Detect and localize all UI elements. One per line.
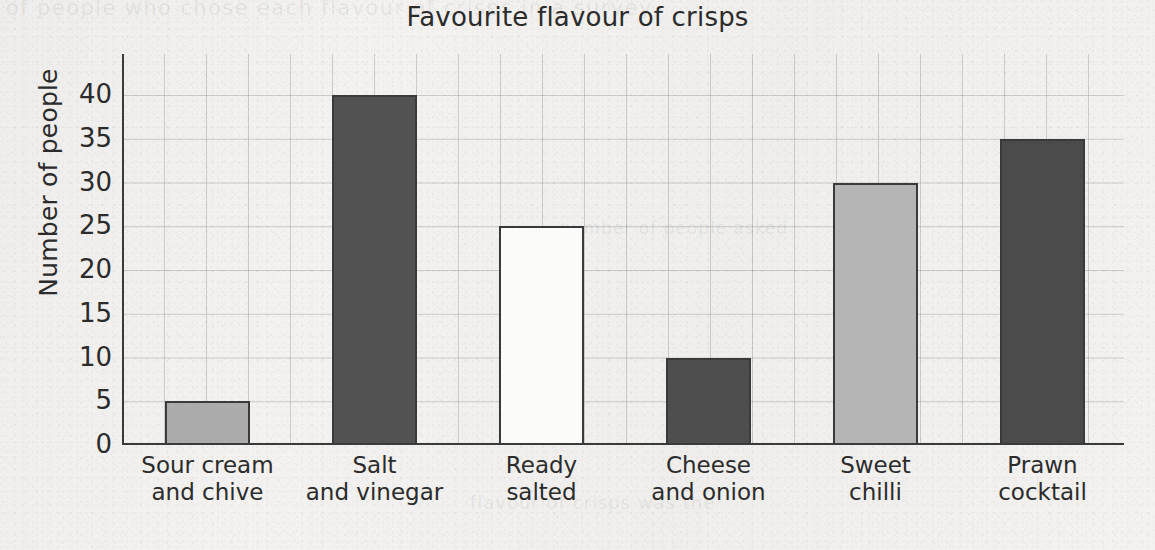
x-tick-label: Sour creamand chive [118, 452, 298, 506]
x-tick-label-line1: Salt [285, 452, 465, 479]
y-tick-label: 5 [52, 387, 112, 413]
y-tick-label: 35 [52, 125, 112, 151]
x-tick-label-line2: salted [452, 479, 632, 506]
x-tick-label-line2: and onion [619, 479, 799, 506]
x-tick-label-line1: Ready [452, 452, 632, 479]
x-tick-label-line1: Prawn [953, 452, 1133, 479]
plot-area [122, 54, 1124, 445]
x-tick-label-line2: cocktail [953, 479, 1133, 506]
y-tick-label: 20 [52, 256, 112, 282]
y-tick-label: 40 [52, 81, 112, 107]
x-tick-label-line2: and chive [118, 479, 298, 506]
x-tick-label: Readysalted [452, 452, 632, 506]
bar [165, 401, 250, 445]
bars-container [122, 54, 1124, 445]
y-tick-label: 30 [52, 169, 112, 195]
bar [666, 358, 751, 445]
x-tick-label-line2: chilli [786, 479, 966, 506]
y-tick-label: 25 [52, 212, 112, 238]
x-tick-label: Sweetchilli [786, 452, 966, 506]
y-tick-label: 0 [52, 431, 112, 457]
y-axis-tick-labels: 0510152025303540 [46, 54, 112, 445]
bar [499, 226, 584, 445]
bar [1000, 139, 1085, 445]
x-tick-label-line1: Sour cream [118, 452, 298, 479]
x-tick-label-line1: Cheese [619, 452, 799, 479]
bar-chart: Favourite flavour of crisps Number of pe… [0, 0, 1155, 550]
x-axis-tick-labels: Sour creamand chiveSaltand vinegarReadys… [122, 452, 1124, 532]
bar [332, 95, 417, 445]
y-tick-label: 10 [52, 344, 112, 370]
x-tick-label-line2: and vinegar [285, 479, 465, 506]
x-tick-label: Cheeseand onion [619, 452, 799, 506]
x-tick-label-line1: Sweet [786, 452, 966, 479]
x-tick-label: Prawncocktail [953, 452, 1133, 506]
bar [833, 183, 918, 445]
chart-title: Favourite flavour of crisps [0, 2, 1155, 32]
x-tick-label: Saltand vinegar [285, 452, 465, 506]
y-tick-label: 15 [52, 300, 112, 326]
